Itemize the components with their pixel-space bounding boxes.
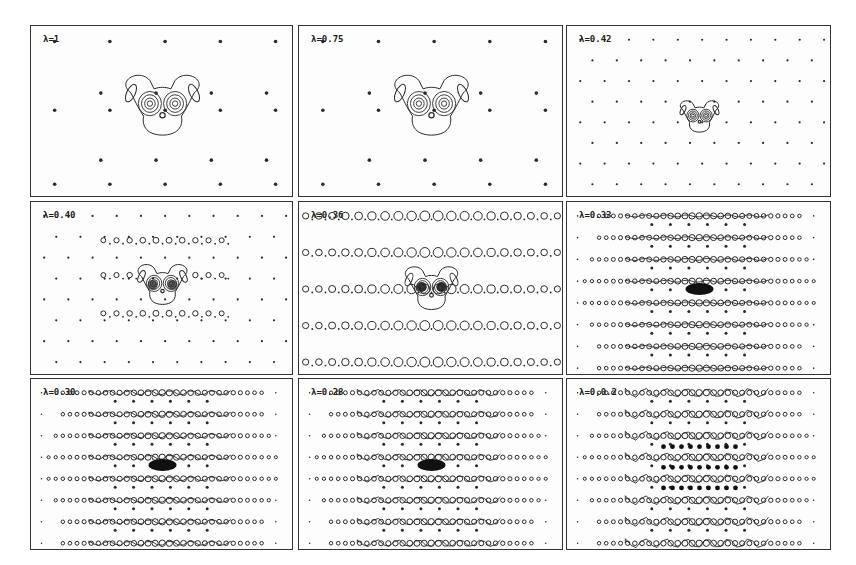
density-contour-plot	[299, 26, 563, 197]
density-contour-plot	[31, 379, 293, 550]
density-contour-plot	[299, 379, 563, 550]
lambda-label: λ=0.30	[43, 387, 76, 397]
lambda-label: λ=0.40	[43, 210, 76, 220]
panel-p5: λ=0.36	[298, 201, 563, 375]
lambda-label: λ=0,0.2	[579, 387, 617, 397]
panel-p2: λ=0.75	[298, 25, 563, 197]
lambda-label: λ=0.75	[311, 34, 344, 44]
density-contour-plot	[567, 202, 831, 375]
lambda-label: λ=0.36	[311, 210, 344, 220]
lambda-label: λ=0.42	[579, 34, 612, 44]
lambda-label: λ=1	[43, 34, 59, 44]
panel-p4: λ=0.40	[30, 201, 293, 375]
density-contour-plot	[567, 379, 831, 550]
panel-p9: λ=0,0.2	[566, 378, 831, 550]
density-contour-plot	[31, 202, 293, 375]
panel-p6: λ=0.33	[566, 201, 831, 375]
density-contour-plot	[31, 26, 293, 197]
density-contour-plot	[567, 26, 831, 197]
panel-p8: λ=0.28	[298, 378, 563, 550]
panel-p3: λ=0.42	[566, 25, 831, 197]
lambda-label: λ=0.33	[579, 210, 612, 220]
panel-p7: λ=0.30	[30, 378, 293, 550]
density-contour-plot	[299, 202, 563, 375]
panel-p1: λ=1	[30, 25, 293, 197]
lambda-label: λ=0.28	[311, 387, 344, 397]
